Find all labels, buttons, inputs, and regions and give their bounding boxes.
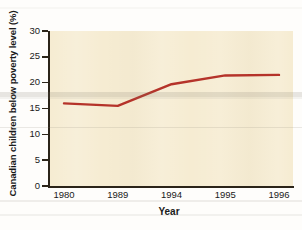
poverty-level-polyline [64, 75, 279, 106]
data-series-line [0, 0, 302, 230]
x-axis-title: Year [40, 206, 298, 217]
chart-figure: Canadian children below poverty level (%… [0, 0, 302, 230]
